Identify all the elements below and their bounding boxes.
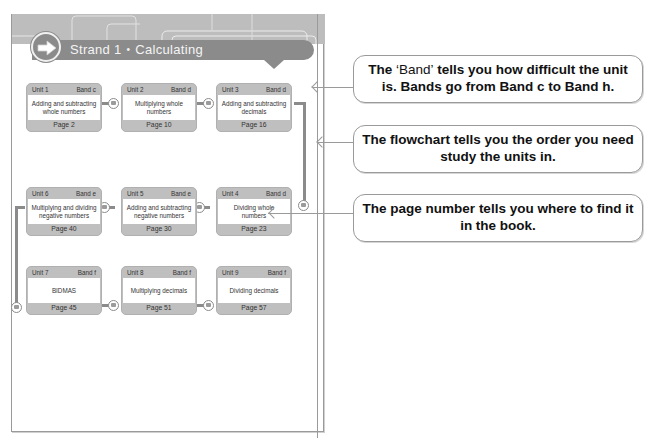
callout-flowchart: The flowchart tells you the order you ne… [353,125,643,173]
guide-line [317,14,318,438]
unit-number: Unit 5 [127,190,143,199]
unit-page: Page 2 [27,121,101,131]
callout-quoted-term: ‘Band’ [396,62,434,77]
unit-page: Page 45 [27,304,101,314]
callout-band: The ‘Band’ tells you how difficult the u… [353,55,643,103]
callout-page-number: The page number tells you where to find … [353,194,643,242]
unit-title: Adding and subtracting decimals [221,100,287,116]
unit-card[interactable]: Unit 1Band c Adding and subtracting whol… [26,83,102,132]
unit-card[interactable]: Unit 7Band f BIDMAS Page 45 [26,266,102,315]
banner-pointer [264,60,284,69]
unit-band: Band f [78,269,96,278]
unit-title: Adding and subtracting whole numbers [31,100,97,116]
callout-text: The [368,62,396,77]
flow-arrow-icon [298,200,309,211]
unit-number: Unit 8 [127,269,143,278]
unit-band: Band f [173,269,191,278]
unit-number: Unit 9 [222,269,238,278]
unit-band: Band e [76,190,96,199]
unit-number: Unit 7 [32,269,48,278]
unit-band: Band e [171,190,191,199]
flow-arrow-icon [11,302,22,313]
strand-label: Strand 1 [70,42,122,57]
flow-arrow-icon [108,98,119,109]
unit-page: Page 57 [217,304,291,314]
unit-page: Page 16 [217,121,291,131]
unit-band: Band d [266,190,286,199]
unit-band: Band d [266,86,286,95]
unit-number: Unit 6 [32,190,48,199]
pointer-line-page [318,213,353,214]
unit-card[interactable]: Unit 8Band f Multiplying decimals Page 5… [121,266,197,315]
unit-card[interactable]: Unit 9Band f Dividing decimals Page 57 [216,266,292,315]
flow-arrow-icon [203,300,214,311]
connector-line [15,206,18,305]
unit-band: Band c [76,86,96,95]
unit-card[interactable]: Unit 5Band e Adding and subtracting nega… [121,187,197,236]
strand-name: Calculating [135,42,203,57]
unit-page: Page 30 [122,225,196,235]
strand-title: Strand 1•Calculating [70,42,203,57]
unit-page: Page 10 [122,121,196,131]
unit-number: Unit 3 [222,86,238,95]
unit-page: Page 40 [27,225,101,235]
unit-band: Band d [171,86,191,95]
callout-text: The page number tells you where to find … [363,201,634,233]
unit-title: Adding and subtracting negative numbers [126,204,192,220]
unit-title: Multiplying decimals [131,287,187,295]
unit-card[interactable]: Unit 6Band e Multiplying and dividing ne… [26,187,102,236]
unit-page: Page 51 [122,304,196,314]
unit-title: Multiplying and dividing negative number… [31,204,97,220]
strand-separator: • [127,44,131,55]
unit-title: Dividing decimals [230,287,279,295]
unit-band: Band f [268,269,286,278]
strand-badge [31,32,61,62]
unit-page: Page 23 [217,225,291,235]
connector-line [303,102,306,202]
unit-title: BIDMAS [52,287,76,295]
flow-arrow-icon [203,98,214,109]
textbook-page: Strand 1•Calculating Unit 1Band c Adding… [11,14,324,432]
flow-arrow-icon [108,300,119,311]
unit-card[interactable]: Unit 2Band d Multiplying whole numbers P… [121,83,197,132]
callout-text: The flowchart tells you the order you ne… [362,132,634,164]
unit-card[interactable]: Unit 4Band d Dividing whole numbers Page… [216,187,292,236]
unit-number: Unit 4 [222,190,238,199]
unit-number: Unit 2 [127,86,143,95]
unit-number: Unit 1 [32,86,48,95]
arrow-right-icon [37,40,57,56]
unit-card[interactable]: Unit 3Band d Adding and subtracting deci… [216,83,292,132]
unit-title: Multiplying whole numbers [126,100,192,116]
